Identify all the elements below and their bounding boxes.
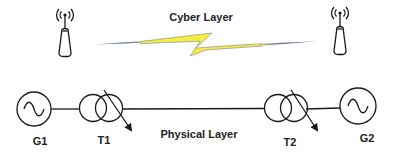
radio-antenna-icon-right bbox=[332, 7, 349, 55]
cyber-physical-diagram: Cyber Layer G1 bbox=[0, 0, 402, 154]
sine-wave-icon bbox=[348, 99, 368, 113]
bolt-body bbox=[140, 33, 262, 56]
line-t1-t2 bbox=[122, 109, 265, 110]
label-t2: T2 bbox=[284, 136, 297, 148]
cyber-layer-title: Cyber Layer bbox=[169, 11, 233, 23]
transformer-t1: T1 bbox=[80, 90, 132, 146]
transformer-winding-primary bbox=[265, 95, 292, 122]
wireless-link-bolt-icon bbox=[95, 33, 317, 56]
label-t1: T1 bbox=[98, 134, 111, 146]
generator-g1: G1 bbox=[17, 92, 51, 147]
transformer-t2: T2 bbox=[265, 90, 318, 148]
tap-changer-arrow-icon bbox=[291, 90, 317, 130]
line-t2-g2 bbox=[306, 108, 340, 109]
tap-changer-arrow-icon bbox=[104, 90, 131, 130]
transformer-winding-primary bbox=[80, 95, 107, 122]
radio-antenna-icon-left bbox=[57, 9, 74, 57]
bolt-tail-right bbox=[255, 41, 317, 46]
physical-layer-title: Physical Layer bbox=[160, 128, 238, 140]
label-g1: G1 bbox=[33, 135, 48, 147]
sine-wave-icon bbox=[24, 102, 44, 116]
generator-g2: G2 bbox=[340, 88, 376, 144]
label-g2: G2 bbox=[360, 132, 375, 144]
